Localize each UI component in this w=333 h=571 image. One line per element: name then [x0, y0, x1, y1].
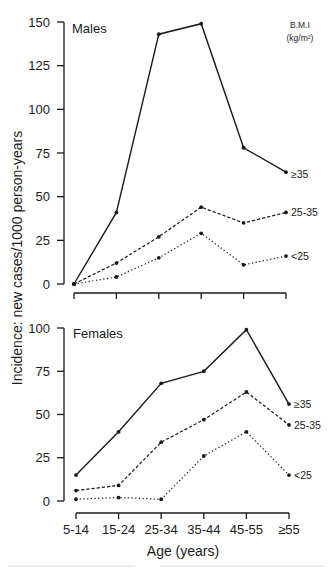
data-point: [202, 369, 206, 373]
series-label: 25-35: [294, 419, 321, 431]
y-tick-label: 125: [28, 58, 50, 73]
data-point: [115, 261, 119, 265]
data-point: [242, 146, 246, 150]
x-tick-label: 15-24: [102, 522, 135, 537]
data-point: [117, 484, 121, 488]
legend-title-units: (kg/m²): [287, 33, 314, 43]
data-point: [202, 454, 206, 458]
series-label: <25: [294, 469, 312, 481]
data-point: [284, 210, 288, 214]
faint-caption-remnant: [8, 565, 325, 567]
data-point: [287, 402, 291, 406]
data-point: [157, 32, 161, 36]
data-point: [242, 263, 246, 267]
data-point: [284, 170, 288, 174]
y-tick-label: 75: [36, 364, 50, 379]
y-tick-label: 50: [36, 189, 50, 204]
data-point: [117, 430, 121, 434]
data-point: [245, 390, 249, 394]
x-tick-label: 25-34: [145, 522, 178, 537]
series-label: ≥35: [294, 398, 312, 410]
females-panel-title: Females: [73, 326, 123, 341]
y-tick-label: 25: [36, 233, 50, 248]
series-line-dotted: [74, 233, 286, 284]
data-point: [72, 282, 76, 286]
y-tick-label: 50: [36, 407, 50, 422]
x-tick-label: 45-55: [230, 522, 263, 537]
y-tick-label: 25: [36, 450, 50, 465]
data-point: [199, 231, 203, 235]
legend-title-bmi: B.M.I: [290, 20, 310, 30]
y-tick-label: 100: [28, 102, 50, 117]
x-axis-title: Age (years): [147, 543, 219, 559]
y-tick-label: 0: [43, 277, 50, 292]
data-point: [159, 497, 163, 501]
y-tick-label: 150: [28, 15, 50, 30]
data-point: [74, 473, 78, 477]
data-point: [284, 254, 288, 258]
data-point: [242, 221, 246, 225]
data-point: [159, 440, 163, 444]
data-point: [199, 205, 203, 209]
series-label: <25: [291, 250, 309, 262]
y-tick-label: 75: [36, 146, 50, 161]
data-point: [159, 381, 163, 385]
data-point: [245, 430, 249, 434]
x-tick-label: ≥55: [278, 522, 300, 537]
data-point: [245, 328, 249, 332]
males-panel: 0255075100125150≥3525-35<25: [28, 15, 318, 300]
data-point: [287, 473, 291, 477]
y-tick-label: 100: [28, 321, 50, 336]
data-point: [157, 256, 161, 260]
data-point: [202, 418, 206, 422]
data-point: [74, 497, 78, 501]
series-line-solid: [76, 330, 289, 475]
incidence-figure: 0255075100125150≥3525-35<25 02550751005-…: [0, 0, 333, 571]
data-point: [115, 275, 119, 279]
y-tick-label: 0: [43, 494, 50, 509]
males-panel-title: Males: [72, 21, 107, 36]
incidence-line-charts: 0255075100125150≥3525-35<25 02550751005-…: [0, 0, 333, 571]
data-point: [199, 22, 203, 26]
data-point: [117, 496, 121, 500]
series-label: ≥35: [291, 168, 309, 180]
data-point: [74, 489, 78, 493]
x-tick-label: 35-44: [187, 522, 220, 537]
series-label: 25-35: [291, 206, 318, 218]
series-line-dashed: [74, 207, 286, 284]
x-tick-label: 5-14: [63, 522, 89, 537]
y-axis-title: Incidence: new cases/1000 person-years: [9, 131, 25, 385]
series-line-dashed: [76, 392, 289, 491]
females-panel: 02550751005-1415-2425-3435-4445-55≥55≥35…: [28, 321, 321, 538]
data-point: [157, 235, 161, 239]
series-line-solid: [74, 24, 286, 284]
data-point: [115, 210, 119, 214]
data-point: [287, 423, 291, 427]
